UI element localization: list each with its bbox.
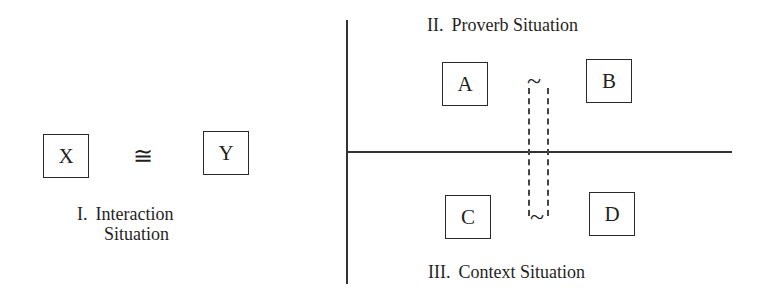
- context-caption-text: Context Situation: [458, 262, 585, 282]
- box-c: C: [445, 195, 491, 239]
- box-y: Y: [203, 131, 249, 175]
- proverb-numeral: II.: [427, 15, 444, 35]
- interaction-caption: I.Interaction: [77, 204, 173, 224]
- box-d-label: D: [604, 202, 619, 227]
- connector-dashed-right: [547, 88, 549, 216]
- interaction-caption-line1: Interaction: [96, 204, 174, 224]
- box-c-label: C: [461, 205, 475, 230]
- box-x: X: [43, 134, 89, 178]
- interaction-numeral: I.: [77, 204, 88, 224]
- box-a-label: A: [457, 72, 472, 97]
- interaction-caption-line2: Situation: [104, 224, 169, 244]
- proverb-caption-text: Proverb Situation: [452, 15, 579, 35]
- box-d: D: [589, 192, 635, 236]
- horizontal-divider: [348, 151, 732, 153]
- connector-dashed-left: [528, 88, 530, 216]
- context-numeral: III.: [428, 262, 450, 282]
- proverb-caption: II.Proverb Situation: [427, 15, 578, 35]
- box-b-label: B: [602, 69, 616, 94]
- context-similarity-symbol: ~: [530, 204, 544, 230]
- box-b: B: [586, 59, 632, 103]
- box-x-label: X: [58, 144, 73, 169]
- context-caption: III.Context Situation: [428, 262, 585, 282]
- box-a: A: [442, 62, 488, 106]
- box-y-label: Y: [218, 141, 233, 166]
- congruence-symbol: ≅: [133, 143, 153, 169]
